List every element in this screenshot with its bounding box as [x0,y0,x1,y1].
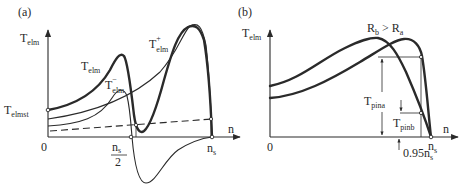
start-torque-label: Telmst [4,103,29,119]
panel-b-y-axis-label: Telm [242,26,262,42]
panel-b: (b) Telm n 0 Rb>Ra Tpina Tpinb 0.95ns ns [238,5,458,162]
sync-speed-tick-label: ns [207,141,216,157]
panel-a-label: (a) [18,5,31,19]
panel-b-label: (b) [238,5,252,19]
figure: (a) Telm n 0 Telmst Telm Telm− Telm+ [0,0,476,192]
intersection-point [134,123,137,126]
panel-a: (a) Telm n 0 Telmst Telm Telm− Telm+ [4,5,240,183]
half-sync-point [129,135,133,139]
pin-a-label: Tpina [364,94,386,110]
panel-a-x-axis-label: n [228,122,234,136]
sync-speed-point [210,135,214,139]
resistance-relation-label: Rb>Ra [367,21,404,37]
panel-b-x-axis-label: n [443,122,449,136]
pin-b-label: Tpinb [393,116,415,132]
pin-b-point [419,111,422,114]
panel-a-origin-label: 0 [41,140,47,154]
start-torque-point [46,108,50,112]
panel-a-y-axis-label: Telm [20,31,40,47]
t-elm-plus-label: Telm+ [149,34,169,54]
panel-b-origin-label: 0 [267,140,273,154]
intersection-point [209,117,212,120]
half-sync-tick-label: ns [112,140,121,155]
pin-a-point [419,55,422,58]
half-sync-denominator: 2 [115,155,121,169]
sync-speed-tick-label: ns [428,139,437,155]
t-elm-minus-label: Telm− [105,75,125,95]
t-elm-label: Telm [81,59,101,75]
